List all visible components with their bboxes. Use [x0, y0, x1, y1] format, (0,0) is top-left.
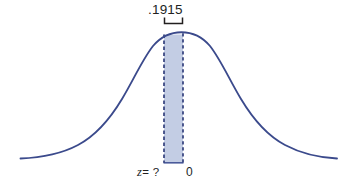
z-unknown-label: z= ?: [137, 166, 159, 179]
normal-curve-plot: [0, 0, 353, 187]
mean-value-label: 0: [186, 166, 193, 178]
normal-curve-figure: .1915 z= ? 0: [0, 0, 353, 187]
area-value-label: .1915: [148, 3, 183, 17]
z-equals-question-text: = ?: [142, 166, 159, 178]
shaded-area-band: [164, 35, 183, 164]
area-bracket: [165, 18, 183, 24]
